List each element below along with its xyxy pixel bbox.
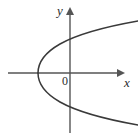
coordinate-plot-svg (0, 0, 138, 139)
parabola-upper-branch (38, 21, 138, 73)
parabola-lower-branch (38, 73, 138, 125)
parabola-figure: y x 0 (0, 0, 138, 139)
x-axis-label: x (124, 76, 130, 89)
origin-label: 0 (62, 75, 68, 87)
y-axis-label: y (57, 4, 63, 17)
